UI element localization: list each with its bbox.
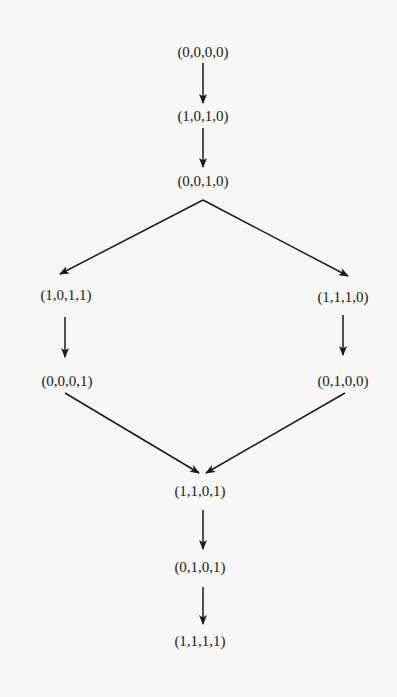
node-0100: (0,1,0,0) <box>317 374 368 389</box>
node-0101: (0,1,0,1) <box>174 560 225 575</box>
node-0001: (0,0,0,1) <box>41 374 92 389</box>
node-1010: (1,0,1,0) <box>177 109 228 124</box>
node-1011: (1,0,1,1) <box>40 288 91 303</box>
node-1101: (1,1,0,1) <box>174 484 225 499</box>
arrow-icon-n6-to-n7 <box>206 393 345 473</box>
state-diagram: (0,0,0,0) (1,0,1,0) (0,0,1,0) (1,0,1,1) … <box>0 0 397 697</box>
arrow-icon-n2-to-n4 <box>203 200 348 276</box>
node-1110: (1,1,1,0) <box>317 290 368 305</box>
arrow-icon-n5-to-n7 <box>65 393 199 473</box>
arrow-icon-n2-to-n3 <box>60 200 203 274</box>
node-0000: (0,0,0,0) <box>177 45 228 60</box>
node-1111: (1,1,1,1) <box>174 634 225 649</box>
edge-layer <box>0 0 397 697</box>
node-0010: (0,0,1,0) <box>177 174 228 189</box>
